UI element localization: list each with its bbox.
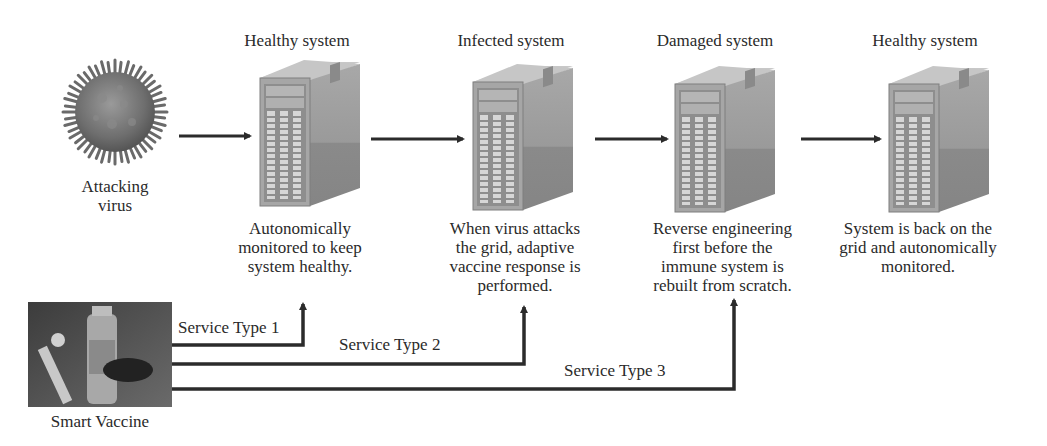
caption-line: the grid, adaptive: [425, 238, 605, 257]
stage-caption-healthy: Autonomically monitored to keep system h…: [215, 219, 385, 276]
stage-title-infected: Infected system: [436, 31, 586, 50]
stage-caption-healthy-restored: System is back on the grid and autonomic…: [818, 219, 1018, 276]
caption-line: When virus attacks: [425, 219, 605, 238]
stage-title-healthy-restored: Healthy system: [850, 31, 1000, 50]
service-type-2-label: Service Type 2: [339, 335, 440, 354]
caption-line: rebuilt from scratch.: [630, 276, 815, 295]
caption-line: immune system is: [630, 257, 815, 276]
server-icon-healthy: [260, 60, 360, 206]
caption-line: monitored to keep: [215, 238, 385, 257]
stage-title-damaged: Damaged system: [640, 31, 790, 50]
virus-label: Attacking virus: [55, 177, 175, 215]
vaccine-label: Smart Vaccine: [28, 412, 172, 431]
server-icon-healthy-restored: [889, 66, 989, 212]
caption-line: vaccine response is: [425, 257, 605, 276]
virus-label-line1: Attacking: [55, 177, 175, 196]
stage-caption-damaged: Reverse engineering first before the imm…: [630, 219, 815, 295]
service-type-1-label: Service Type 1: [178, 318, 279, 337]
caption-line: monitored.: [818, 257, 1018, 276]
stage-title-healthy: Healthy system: [222, 31, 372, 50]
caption-line: System is back on the: [818, 219, 1018, 238]
caption-line: Autonomically: [215, 219, 385, 238]
virus-label-line2: virus: [55, 196, 175, 215]
server-icon-infected: [473, 64, 573, 210]
vaccine-vial-icon: [28, 302, 172, 407]
virus-icon: [63, 60, 167, 164]
caption-line: grid and autonomically: [818, 238, 1018, 257]
caption-line: system healthy.: [215, 257, 385, 276]
stage-caption-infected: When virus attacks the grid, adaptive va…: [425, 219, 605, 295]
caption-line: first before the: [630, 238, 815, 257]
service-type-3-label: Service Type 3: [564, 361, 665, 380]
server-icon-damaged: [675, 66, 775, 212]
caption-line: performed.: [425, 276, 605, 295]
caption-line: Reverse engineering: [630, 219, 815, 238]
